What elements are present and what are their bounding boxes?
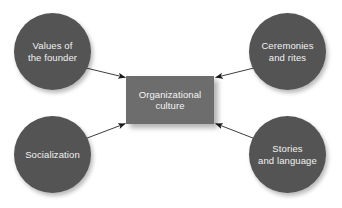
center-node-label: Organizational culture [139,89,202,112]
arrow-values-to-center [82,67,126,78]
organizational-culture-diagram: Values of the founder Ceremonies and rit… [0,0,342,208]
node-label: Values of the founder [24,40,81,63]
node-ceremonies-and-rites[interactable]: Ceremonies and rites [249,13,326,90]
arrow-socialization-to-center [82,124,126,141]
node-stories-and-language[interactable]: Stories and language [249,116,326,193]
node-label: Socialization [21,149,84,161]
node-socialization[interactable]: Socialization [14,116,91,193]
node-label: Ceremonies and rites [257,40,317,63]
node-organizational-culture[interactable]: Organizational culture [126,76,214,124]
node-values-of-the-founder[interactable]: Values of the founder [14,13,91,90]
arrow-ceremonies-to-center [216,67,259,78]
node-label: Stories and language [254,143,321,166]
